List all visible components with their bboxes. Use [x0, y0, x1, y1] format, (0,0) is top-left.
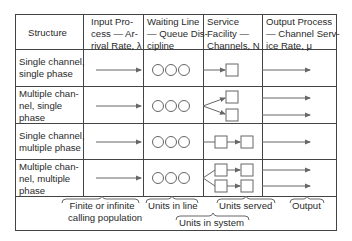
label-calling-population: Finite or infinite calling population	[68, 200, 136, 224]
label-units-in-line: Units in line	[148, 200, 198, 212]
label-output: Output	[292, 200, 321, 212]
label-text: Units in system	[179, 217, 244, 228]
queue-circles-icon	[153, 137, 190, 148]
server-multi-channel-multi-phase-icon	[203, 164, 253, 192]
label-text: Units served	[219, 200, 272, 211]
queue-circles-icon	[153, 173, 190, 184]
label-text: Output	[292, 200, 321, 211]
queue-circles-icon	[153, 101, 190, 112]
server-multi-channel-icon	[203, 91, 238, 121]
label-units-served: Units served	[219, 200, 272, 212]
label-units-in-system: Units in system	[179, 217, 244, 229]
server-single-channel-icon	[203, 64, 238, 76]
label-line: calling population	[68, 212, 136, 224]
queue-circles-icon	[153, 65, 190, 76]
server-multi-phase-icon	[203, 136, 253, 148]
label-line: Finite or infinite	[68, 200, 136, 212]
label-text: Units in line	[148, 200, 198, 211]
